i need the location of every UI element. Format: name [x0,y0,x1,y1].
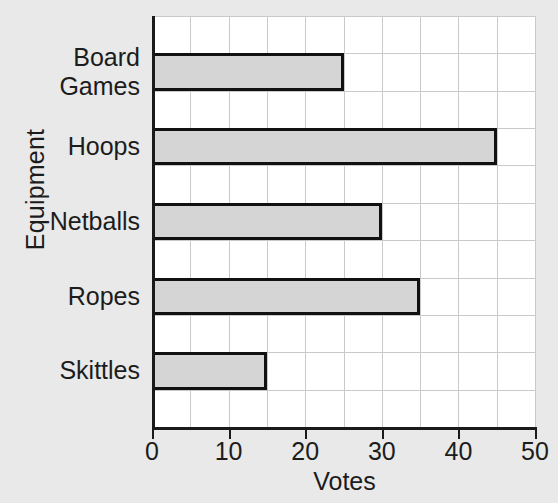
y-axis-tick-label: Netballs [0,207,140,236]
y-axis-tick-label: Board Games [0,43,140,101]
vertical-gridline [497,16,498,427]
y-axis-line [152,16,155,430]
bar [152,203,382,240]
bar [152,53,344,90]
y-axis-tick-label: Skittles [0,356,140,385]
y-axis-tick-label: Hoops [0,132,140,161]
x-axis-tick-label: 10 [199,437,259,466]
vertical-gridline [382,16,383,427]
x-axis-tick-label: 30 [352,437,412,466]
bar [152,278,420,315]
x-axis-tick-label: 0 [122,437,182,466]
x-axis-line [152,427,537,430]
x-axis-tick-label: 20 [275,437,335,466]
horizontal-gridline [152,390,535,391]
horizontal-gridline [152,16,535,17]
horizontal-gridline [152,91,535,92]
y-axis-tick-labels: Board GamesHoopsNetballsRopesSkittles [0,16,146,427]
bar [152,352,267,389]
x-axis-title: Votes [152,467,537,496]
bar [152,128,497,165]
horizontal-gridline [152,315,535,316]
vertical-gridline [458,16,459,427]
bar-chart: Equipment Board GamesHoopsNetballsRopesS… [0,0,558,503]
vertical-gridline [535,16,536,427]
y-axis-tick-label: Ropes [0,282,140,311]
vertical-gridline [420,16,421,427]
plot-area [152,16,535,427]
x-axis-tick-label: 40 [428,437,488,466]
x-axis-tick-label: 50 [505,437,558,466]
